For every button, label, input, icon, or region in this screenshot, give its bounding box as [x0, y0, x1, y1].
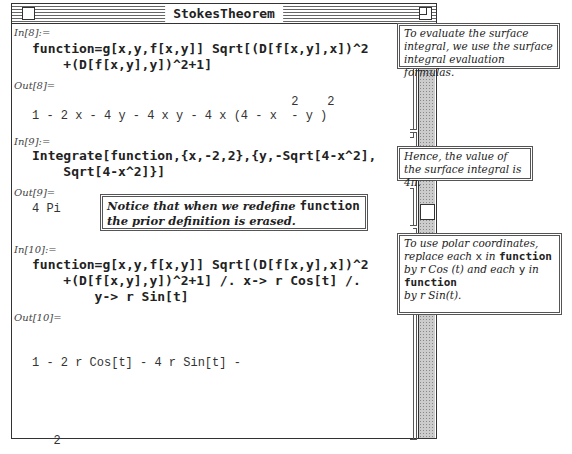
input-cell-8[interactable]: function=g[x,y,f[x,y]] Sqrt[(D[f[x,y],x]… — [32, 41, 369, 73]
output-cell-10: 1 - 2 r Cos[t] - 4 r Sin[t] - 2 4 r Cos[… — [32, 328, 327, 454]
zoom-box-icon[interactable] — [419, 7, 432, 20]
window-title: StokesTheorem — [165, 5, 283, 22]
note-result: Hence, the value of the surface integral… — [397, 146, 533, 181]
input-cell-10[interactable]: function=g[x,y,f[x,y]] Sqrt[(D[f[x,y],x]… — [32, 257, 369, 305]
note-polar-coordinates: To use polar coordinates, replace each x… — [397, 233, 562, 315]
title-bar[interactable]: StokesTheorem — [12, 4, 436, 24]
in-label-8: In[8]:= — [14, 27, 50, 38]
vertical-scrollbar[interactable] — [418, 24, 435, 438]
in-label-9: In[9]:= — [14, 136, 50, 147]
close-box-icon[interactable] — [22, 7, 35, 20]
scroll-thumb[interactable] — [420, 204, 435, 220]
in-label-10: In[10]:= — [14, 244, 57, 255]
out-label-9: Out[9]= — [14, 187, 55, 198]
note-redefine: Notice that when we redefine function th… — [100, 194, 368, 231]
out-label-8: Out[8]= — [14, 80, 55, 91]
note-surface-integral: To evaluate the surface integral, we use… — [397, 23, 560, 69]
input-cell-9[interactable]: Integrate[function,{x,-2,2},{y,-Sqrt[4-x… — [32, 148, 376, 180]
output-cell-9: 4 Pi — [32, 202, 61, 216]
out-label-10: Out[10]= — [14, 312, 62, 323]
output-cell-8: 2 21 - 2 x - 4 y - 4 x y - 4 x (4 - x - … — [32, 95, 334, 123]
